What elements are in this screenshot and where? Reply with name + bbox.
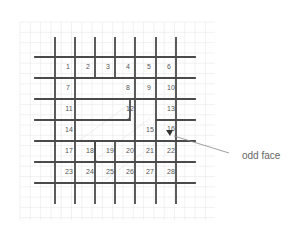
face-label-8: 8	[126, 84, 130, 91]
face-label-22: 22	[167, 147, 175, 154]
face-label-10: 10	[167, 84, 175, 91]
face-label-14: 14	[65, 126, 73, 133]
face-label-18: 18	[86, 147, 94, 154]
face-label-28: 28	[167, 168, 175, 175]
face-label-27: 27	[146, 168, 154, 175]
face-label-5: 5	[147, 63, 151, 70]
face-label-7: 7	[66, 84, 70, 91]
face-label-15: 15	[146, 126, 154, 133]
face-label-3: 3	[106, 63, 110, 70]
face-label-12: 12	[126, 105, 134, 112]
face-label-25: 25	[106, 168, 114, 175]
face-label-4: 4	[126, 63, 130, 70]
face-label-24: 24	[86, 168, 94, 175]
face-label-19: 19	[106, 147, 114, 154]
face-label-2: 2	[86, 63, 90, 70]
face-label-20: 20	[126, 147, 134, 154]
face-label-13: 13	[167, 105, 175, 112]
face-label-6: 6	[167, 63, 171, 70]
face-label-9: 9	[147, 84, 151, 91]
face-label-26: 26	[126, 168, 134, 175]
odd-face-label: odd face	[242, 150, 281, 161]
bent-edge-12	[35, 99, 130, 120]
leader-line	[174, 136, 229, 153]
grid-diagram: 1234567891011121314151617181920212223242…	[0, 0, 298, 235]
background-grid	[20, 22, 215, 220]
face-label-23: 23	[65, 168, 73, 175]
face-label-21: 21	[146, 147, 154, 154]
face-label-11: 11	[65, 105, 72, 112]
face-label-1: 1	[66, 63, 70, 70]
face-label-17: 17	[65, 147, 73, 154]
